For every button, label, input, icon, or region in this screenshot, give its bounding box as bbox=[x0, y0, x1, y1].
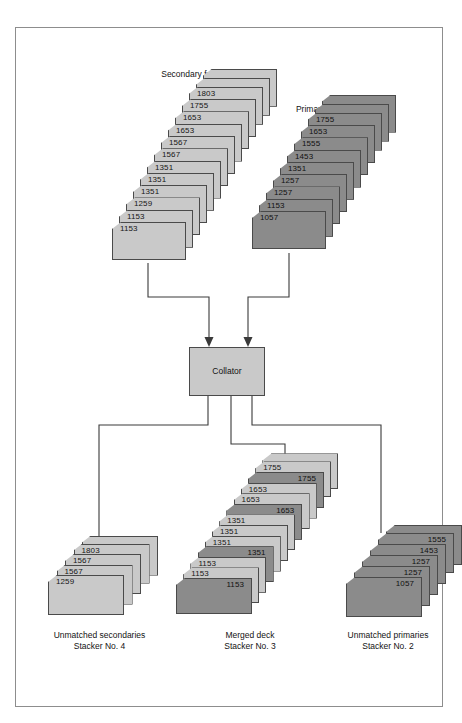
arrow-primary-to-collator bbox=[244, 337, 253, 347]
card-number: 1567 bbox=[169, 138, 187, 148]
card-number: 1351 bbox=[213, 538, 231, 548]
card-number: 1257 bbox=[404, 568, 422, 578]
line-secondary-to-collator bbox=[148, 263, 209, 341]
card-number: 1259 bbox=[134, 199, 152, 209]
card-number: 1653 bbox=[249, 485, 267, 495]
card-number: 1803 bbox=[197, 89, 215, 99]
card: 1259 bbox=[48, 575, 124, 615]
card-number: 1453 bbox=[295, 152, 313, 162]
card-number: 1351 bbox=[141, 187, 159, 197]
collator-box[interactable]: Collator bbox=[189, 347, 265, 396]
card-number: 1755 bbox=[316, 115, 334, 125]
card-number: 1453 bbox=[420, 546, 438, 556]
merged-deck-label-1: Merged deck bbox=[190, 630, 310, 641]
unmatched-primaries-label-2: Stacker No. 2 bbox=[318, 641, 458, 652]
card-number: 1153 bbox=[226, 580, 244, 590]
card-number: 1755 bbox=[190, 101, 208, 111]
card-number: 1351 bbox=[220, 527, 238, 537]
card-number: 1653 bbox=[183, 113, 201, 123]
unmatched-secondaries-label-1: Unmatched secondaries bbox=[22, 630, 177, 641]
card-number: 1653 bbox=[276, 506, 294, 516]
card-number: 1259 bbox=[56, 577, 74, 587]
card-number: 1351 bbox=[227, 516, 245, 526]
card-number: 1567 bbox=[162, 150, 180, 160]
card-number: 1755 bbox=[298, 474, 316, 484]
card: 1057 bbox=[252, 211, 326, 249]
card-number: 1351 bbox=[288, 164, 306, 174]
unmatched-secondaries-label-2: Stacker No. 4 bbox=[22, 641, 177, 652]
arrow-secondary-to-collator bbox=[205, 337, 214, 347]
card-number: 1057 bbox=[260, 213, 278, 223]
line-collator-to-stacker4 bbox=[99, 396, 208, 550]
line-primary-to-collator bbox=[248, 253, 289, 341]
collator-label: Collator bbox=[190, 366, 264, 376]
unmatched-primaries-label-1: Unmatched primaries bbox=[318, 630, 458, 641]
card-number: 1351 bbox=[148, 175, 166, 185]
card-number: 1153 bbox=[267, 201, 285, 211]
card-number: 1653 bbox=[242, 495, 260, 505]
card: 1057 bbox=[346, 577, 422, 617]
card-number: 1257 bbox=[274, 188, 292, 198]
card-number: 1755 bbox=[263, 463, 281, 473]
card-number: 1555 bbox=[302, 139, 320, 149]
card-number: 1351 bbox=[155, 163, 173, 173]
card: 1153 bbox=[112, 222, 186, 260]
line-collator-to-stacker3 bbox=[231, 396, 285, 463]
card-number: 1153 bbox=[191, 569, 209, 579]
card-number: 1153 bbox=[120, 224, 138, 234]
card: 1153 bbox=[176, 578, 252, 614]
merged-deck-label-2: Stacker No. 3 bbox=[190, 641, 310, 652]
card-number: 1153 bbox=[127, 212, 145, 222]
card-number: 1057 bbox=[396, 579, 414, 589]
card-number: 1653 bbox=[176, 126, 194, 136]
card-number: 1653 bbox=[309, 127, 327, 137]
card-number: 1555 bbox=[428, 535, 446, 545]
card-number: 1153 bbox=[198, 559, 216, 569]
card-number: 1257 bbox=[281, 176, 299, 186]
card-number: 1257 bbox=[412, 557, 430, 567]
card-number: 1351 bbox=[247, 548, 265, 558]
